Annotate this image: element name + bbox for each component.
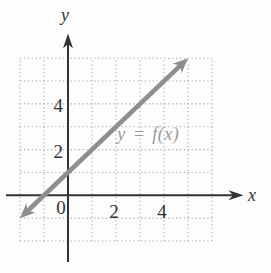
y-tick-label: 4	[54, 95, 64, 114]
x-tick-label: 2	[109, 202, 119, 221]
y-axis-label: y	[61, 6, 69, 24]
function-equation-label: y = f(x)	[117, 125, 179, 143]
function-graph-figure: y x 0 y = f(x) 2424	[0, 0, 271, 273]
x-axis-label: x	[248, 186, 256, 204]
x-tick-label: 4	[157, 202, 167, 221]
y-tick-label: 2	[54, 141, 64, 160]
origin-label: 0	[56, 198, 66, 217]
